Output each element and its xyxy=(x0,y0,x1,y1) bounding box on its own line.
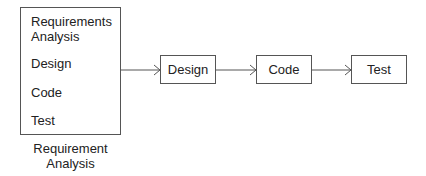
design-step-label: Design xyxy=(168,62,208,77)
caption-line-2: Analysis xyxy=(20,156,121,171)
stack-item-design: Design xyxy=(31,56,71,71)
code-step-label: Code xyxy=(268,62,299,77)
requirements-analysis-stack-box: Requirements Analysis Design Code Test xyxy=(20,7,121,135)
test-step-box: Test xyxy=(351,55,407,84)
stack-item-code: Code xyxy=(31,85,62,100)
caption-line-1: Requirement xyxy=(20,141,121,156)
design-step-box: Design xyxy=(160,55,216,84)
stack-item-test: Test xyxy=(31,113,55,128)
code-step-box: Code xyxy=(256,55,312,84)
stack-item-requirements: Requirements xyxy=(31,14,112,29)
test-step-label: Test xyxy=(367,62,391,77)
stack-item-analysis: Analysis xyxy=(31,29,79,44)
